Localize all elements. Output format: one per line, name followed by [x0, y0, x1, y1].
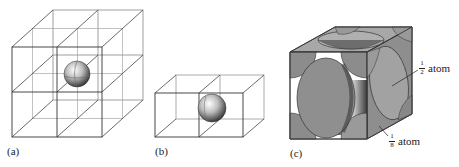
eighth-atom-label: atom — [398, 136, 420, 147]
panel-c-fcc-cell — [290, 27, 418, 139]
panel-c-label: (c) — [290, 148, 302, 159]
panel-a-atom — [64, 61, 90, 87]
panel-b-label: (b) — [155, 146, 168, 157]
half-atom-label: atom — [428, 63, 450, 74]
half-fraction: 1 2 — [419, 60, 425, 76]
crystal-unit-cell-figure: (a) (b) (c) 1 2 atom 1 8 atom — [0, 0, 459, 167]
panel-a-label: (a) — [7, 146, 19, 157]
panel-b-atom — [198, 94, 226, 122]
eighth-fraction: 1 8 — [389, 133, 395, 149]
